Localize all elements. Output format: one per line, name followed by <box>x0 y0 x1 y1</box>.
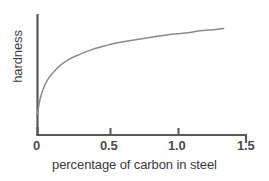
x-tick-label-1point0: 1.0 <box>168 139 185 152</box>
x-tick-label-1point5: 1.5 <box>237 139 254 152</box>
hardness-curve <box>38 29 224 114</box>
y-axis-title: hardness <box>11 18 24 96</box>
plot-area <box>0 0 269 181</box>
x-tick-label-0point5: 0.5 <box>100 139 117 152</box>
x-axis-title: percentage of carbon in steel <box>0 158 269 171</box>
chart-figure: 0 0.5 1.0 1.5 percentage of carbon in st… <box>0 0 269 181</box>
x-tick-label-0: 0 <box>33 139 40 152</box>
